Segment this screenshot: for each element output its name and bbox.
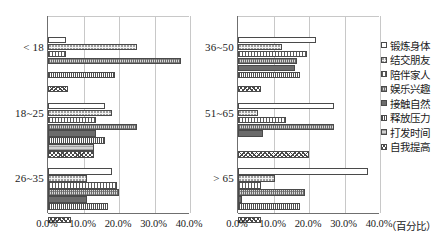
bar: [48, 168, 112, 174]
bar: [48, 51, 66, 57]
bar-group: [48, 32, 189, 98]
legend-swatch-icon: [381, 115, 387, 121]
legend-swatch-icon: [381, 57, 387, 63]
axis-unit-label: （百分比）: [386, 218, 436, 233]
legend-item-label: 自我提高: [390, 139, 430, 154]
category-label: 51~65: [205, 107, 234, 119]
chart-panel-right: 0.0%10.0%20.0%30.0%40.0%36~5051~65> 65: [196, 0, 396, 243]
bar: [238, 58, 297, 64]
x-axis-tick-label: 30.0%: [330, 218, 357, 229]
legend-item[interactable]: 陪伴家人: [381, 67, 447, 82]
legend-item-label: 锻炼身体: [390, 38, 430, 53]
category-label: 36~50: [205, 41, 234, 53]
legend-swatch-icon: [381, 129, 387, 135]
gridline: [190, 16, 191, 213]
chart-legend: 锻炼身体结交朋友陪伴家人娱乐兴趣接触自然释放压力打发时间自我提高: [381, 38, 447, 154]
bar: [238, 110, 258, 116]
bar: [238, 168, 368, 174]
plot-area-left: [47, 16, 189, 213]
bar: [48, 110, 112, 116]
legend-swatch-icon: [381, 42, 387, 48]
bar: [238, 196, 242, 202]
bar: [238, 151, 309, 157]
x-axis-tick-label: 10.0%: [69, 218, 96, 229]
bar: [238, 103, 334, 109]
category-label: 18~25: [15, 107, 44, 119]
plot-area-right: [237, 16, 379, 213]
chart-panel-left: 0.0%10.0%20.0%30.0%40.0%< 1818~2526~35: [0, 0, 200, 243]
bar: [48, 151, 94, 157]
bar: [238, 189, 305, 195]
bar: [48, 86, 68, 92]
bar: [238, 203, 300, 209]
bar: [48, 182, 117, 188]
bar-group: [238, 98, 379, 164]
legend-item[interactable]: 自我提高: [381, 140, 447, 155]
x-axis-tick-label: 0.0%: [226, 218, 247, 229]
bar-group: [48, 98, 189, 164]
legend-item[interactable]: 打发时间: [381, 125, 447, 140]
bar: [238, 51, 307, 57]
legend-swatch-icon: [381, 100, 387, 106]
legend-item-label: 释放压力: [390, 110, 430, 125]
bar: [48, 196, 87, 202]
legend-swatch-icon: [381, 144, 387, 150]
x-axis-tick-label: 30.0%: [140, 218, 167, 229]
legend-item-label: 接触自然: [390, 96, 430, 111]
bar: [48, 37, 66, 43]
bar: [48, 203, 108, 209]
legend-item[interactable]: 锻炼身体: [381, 38, 447, 53]
bar: [238, 72, 300, 78]
legend-item-label: 结交朋友: [390, 52, 430, 67]
bar: [238, 182, 261, 188]
bar: [48, 103, 105, 109]
bar-group: [238, 32, 379, 98]
x-axis-tick-label: 20.0%: [295, 218, 322, 229]
bar: [48, 144, 94, 150]
legend-item-label: 陪伴家人: [390, 67, 430, 82]
x-axis-tick-label: 20.0%: [105, 218, 132, 229]
category-label: < 18: [23, 41, 44, 53]
bar: [238, 44, 282, 50]
bar: [48, 117, 96, 123]
legend-swatch-icon: [381, 71, 387, 77]
bar: [238, 175, 275, 181]
grouped-bar-chart-figure: 0.0%10.0%20.0%30.0%40.0%< 1818~2526~35 0…: [0, 0, 447, 243]
legend-item[interactable]: 娱乐兴趣: [381, 82, 447, 97]
category-label: 26~35: [15, 172, 44, 184]
bar: [48, 44, 137, 50]
bar: [48, 175, 87, 181]
bar: [48, 72, 115, 78]
bar: [48, 130, 96, 136]
bar: [238, 65, 295, 71]
legend-swatch-icon: [381, 86, 387, 92]
bar: [238, 124, 334, 130]
bar: [48, 124, 137, 130]
x-axis-tick-label: 0.0%: [36, 218, 57, 229]
bar: [238, 130, 263, 136]
bar: [238, 117, 286, 123]
legend-item[interactable]: 接触自然: [381, 96, 447, 111]
legend-item[interactable]: 释放压力: [381, 111, 447, 126]
bar: [238, 37, 316, 43]
x-axis-tick-label: 10.0%: [259, 218, 286, 229]
category-label: > 65: [213, 172, 234, 184]
bar: [238, 86, 261, 92]
bar: [48, 137, 105, 143]
legend-item-label: 打发时间: [390, 125, 430, 140]
legend-item-label: 娱乐兴趣: [390, 81, 430, 96]
bar: [48, 58, 181, 64]
legend-item[interactable]: 结交朋友: [381, 53, 447, 68]
bar: [48, 189, 119, 195]
